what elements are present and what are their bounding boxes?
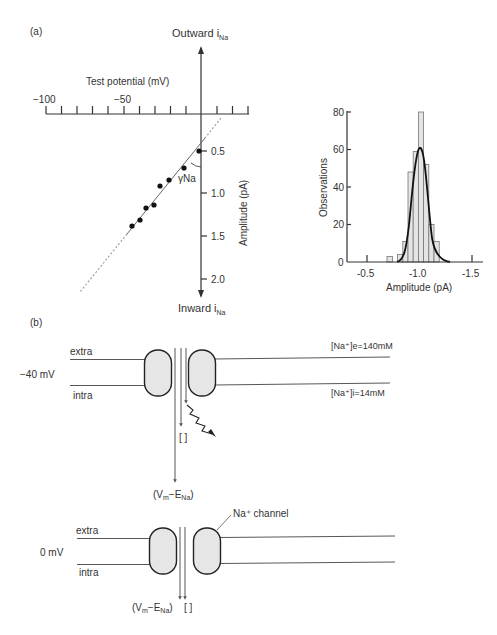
slope-angle-arc [191,163,201,167]
membrane-outer-right [219,536,395,538]
iv-plot: Outward iNa Test potential (mV) −100 −50 [33,27,249,316]
extra-label: extra [70,346,93,357]
membrane-inner-right [214,383,390,385]
hist-x-tick-neg0.5: -0.5 [357,268,375,279]
panel-a-label: (a) [30,26,42,37]
channel-diagram-0mv: extra 0 mV intra Na⁺ channel (Vm−ENa) [ … [40,508,395,614]
y-tick-0.5: 0.5 [211,146,225,157]
up-arrow-icon [198,46,204,54]
iv-x-axis-title: Test potential (mV) [86,76,169,87]
outward-label: Outward iNa [172,27,228,41]
channel-leader-line [217,515,231,530]
iv-data-points [129,148,201,228]
intra-label: intra [73,390,93,401]
na-extracellular-label: [Na⁺]e=140mM [331,341,393,351]
y-ticks [201,151,207,279]
channel-subunit-right [194,528,221,574]
membrane-outer-right [214,357,390,359]
hist-x-tick-neg1.5: -1.5 [462,268,480,279]
y-tick-1.0: 1.0 [211,188,225,199]
hist-y-tick-80: 80 [333,107,345,118]
hist-x-axis-title: Amplitude (pA) [386,282,452,293]
y-tick-1.5: 1.5 [211,231,225,242]
panel-b-label: (b) [30,317,42,328]
channel-diagram-neg40: extra −40 mV intra [Na⁺]e=140mM [Na⁺]i=1… [20,341,393,501]
hist-y-tick-0: 0 [338,257,344,268]
hist-y-axis-title: Observations [318,158,329,217]
inward-label: Inward iNa [178,302,226,316]
fit-extrapolation-upper [205,118,221,138]
hist-y-tick-60: 60 [333,144,345,155]
driving-force-label: (Vm−ENa) [132,602,173,614]
amplitude-histogram: 80 60 40 20 0 -0.5 -1.0 -1.5 Amplitude (… [318,107,483,293]
x-ticks [46,106,248,114]
hist-x-tick-neg1.0: -1.0 [409,268,427,279]
y-tick-2.0: 2.0 [211,274,225,285]
channel-subunit-left [145,350,172,396]
voltage-label: −40 mV [20,369,55,380]
driving-force-label: (Vm−ENa) [153,489,194,501]
figure-canvas: (a) Outward iNa Test potential (mV) −100… [0,0,497,635]
x-tick-label-neg100: −100 [33,94,56,105]
voltage-label: 0 mV [40,547,64,558]
concentration-bracket-label: [ ] [179,432,188,443]
zigzag-arrow-icon [187,405,212,434]
iv-y-axis-title: Amplitude (pA) [238,180,249,246]
hist-y-tick-20: 20 [333,219,345,230]
channel-subunit-right [189,350,216,396]
intra-label: intra [79,567,99,578]
concentration-bracket-label: [ ] [184,602,193,613]
gamma-na-label: γNa [178,173,196,184]
channel-subunit-left [150,528,177,574]
na-intracellular-label: [Na⁺]i=14mM [331,388,385,398]
extra-label: extra [76,525,99,536]
down-arrow-icon [198,290,204,298]
fit-extrapolation-lower [80,234,127,292]
membrane-inner-right [219,562,395,564]
na-channel-label: Na⁺ channel [233,508,289,519]
x-tick-label-neg50: −50 [114,94,131,105]
hist-y-tick-40: 40 [333,182,345,193]
